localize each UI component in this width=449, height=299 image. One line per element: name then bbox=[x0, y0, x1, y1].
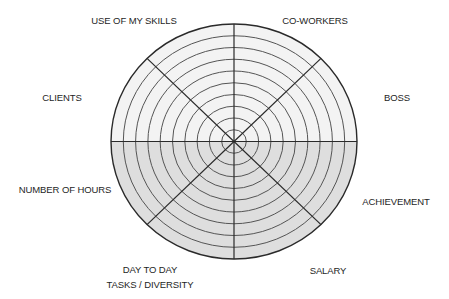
spokes bbox=[111, 24, 357, 259]
label-co-workers: CO-WORKERS bbox=[282, 13, 348, 28]
label-achievement: ACHIEVEMENT bbox=[362, 194, 430, 209]
label-boss: BOSS bbox=[384, 90, 410, 105]
label-day-to-day: DAY TO DAY bbox=[123, 262, 178, 277]
label-use-of-my-skills: USE OF MY SKILLS bbox=[91, 13, 176, 28]
label-salary: SALARY bbox=[310, 263, 347, 278]
label-tasks-diversity: TASKS / DIVERSITY bbox=[107, 277, 194, 292]
label-clients: CLIENTS bbox=[42, 90, 81, 105]
label-number-of-hours: NUMBER OF HOURS bbox=[19, 182, 111, 197]
wheel-diagram bbox=[0, 0, 449, 299]
